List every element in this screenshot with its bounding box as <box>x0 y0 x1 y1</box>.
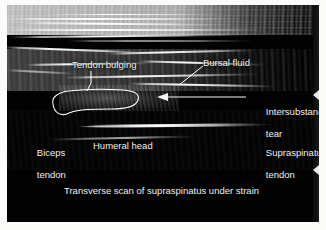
label-biceps-tendon: Biceps tendon <box>21 136 66 191</box>
label-bursal-fluid: Bursal fluid <box>203 57 250 68</box>
label-tendon-bulging: Tendon bulging <box>72 59 136 70</box>
label-supraspinatus-tendon-line1: Supraspinatus <box>266 147 319 158</box>
tendon-bulging-outline <box>53 89 139 114</box>
label-biceps-tendon-line2: tendon <box>37 169 66 180</box>
ultrasound-figure: Tendon bulging Bursal fluid Intersubstan… <box>0 0 326 230</box>
label-supraspinatus-tendon-line2: tendon <box>266 169 295 180</box>
label-biceps-tendon-line1: Biceps <box>37 147 66 158</box>
tendon-bulging-leader-line <box>87 71 91 91</box>
label-humeral-head: Humeral head <box>93 140 153 151</box>
label-intersubstance-tear-line1: Intersubstance <box>266 106 319 117</box>
intersubstance-tear-arrow-head <box>157 93 168 101</box>
label-supraspinatus-tendon: Supraspinatus tendon <box>250 136 319 191</box>
bursal-fluid-leader-line <box>179 66 203 85</box>
ultrasound-scan-image: Tendon bulging Bursal fluid Intersubstan… <box>7 5 319 222</box>
scan-caption: Transverse scan of supraspinatus under s… <box>64 185 259 196</box>
